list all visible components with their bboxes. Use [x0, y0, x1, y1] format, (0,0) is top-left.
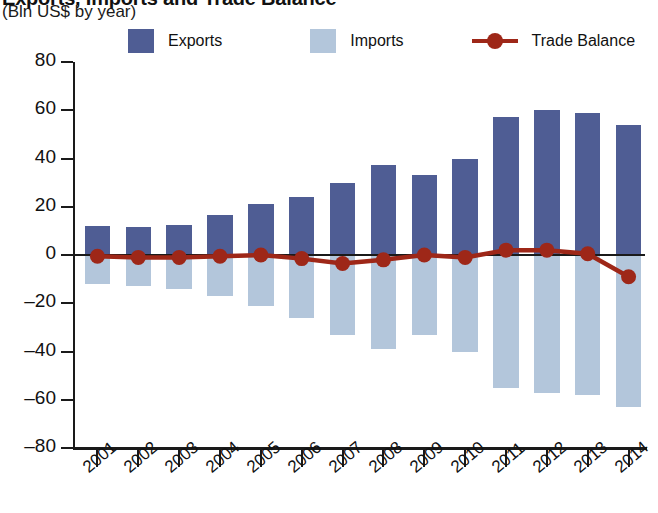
imports-swatch-icon	[310, 29, 336, 53]
y-axis-tick-label: –60	[24, 388, 56, 408]
y-axis-tick-label: 0	[45, 243, 56, 263]
y-axis-tick: 40	[61, 158, 73, 160]
y-axis-tick-label: 80	[35, 50, 56, 70]
trade-balance-point	[253, 248, 268, 263]
trade-balance-line-series	[73, 62, 645, 448]
legend-label-exports: Exports	[168, 32, 222, 50]
plot-area: 806040200–20–40–60–80	[73, 62, 645, 448]
trade-balance-point	[539, 243, 554, 258]
y-axis-tick: 60	[61, 109, 73, 111]
legend-label-imports: Imports	[350, 32, 403, 50]
chart-container: Exports, Imports and Trade Balance (Bln …	[0, 0, 658, 513]
y-axis-tick-label: 20	[35, 195, 56, 215]
y-axis-tick-label: 40	[35, 147, 56, 167]
trade-balance-line-marker-icon	[472, 29, 518, 53]
trade-balance-point	[294, 251, 309, 266]
y-axis-tick: –20	[61, 302, 73, 304]
y-axis-tick-label: 60	[35, 98, 56, 118]
trade-balance-point	[376, 252, 391, 267]
y-axis-tick: 80	[61, 61, 73, 63]
y-axis-tick: –80	[61, 447, 73, 449]
trade-balance-point	[499, 243, 514, 258]
trade-balance-point	[172, 250, 187, 265]
trade-balance-point	[580, 246, 595, 261]
legend-item-trade-balance: Trade Balance	[472, 29, 635, 53]
trade-balance-point	[335, 256, 350, 271]
y-axis-tick: –40	[61, 351, 73, 353]
trade-balance-point	[131, 250, 146, 265]
trade-balance-point	[90, 249, 105, 264]
legend-item-exports: Exports	[128, 29, 222, 53]
chart-legend: Exports Imports Trade Balance	[128, 28, 635, 54]
y-axis-tick: –60	[61, 399, 73, 401]
y-axis-tick-label: –40	[24, 340, 56, 360]
trade-balance-point	[621, 269, 636, 284]
y-axis-tick-label: –20	[24, 291, 56, 311]
y-axis-tick-label: –80	[24, 436, 56, 456]
chart-subtitle: (Bln US$ by year)	[2, 2, 136, 22]
y-axis-tick: 20	[61, 206, 73, 208]
legend-item-imports: Imports	[310, 29, 403, 53]
legend-label-trade-balance: Trade Balance	[532, 32, 635, 50]
trade-balance-point	[213, 249, 228, 264]
exports-swatch-icon	[128, 29, 154, 53]
trade-balance-point	[458, 250, 473, 265]
y-axis-tick: 0	[61, 254, 73, 256]
trade-balance-point	[417, 248, 432, 263]
